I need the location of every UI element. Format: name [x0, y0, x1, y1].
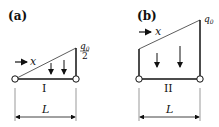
- load-magnitude-label: q0: [204, 14, 214, 25]
- panel-b: (b) x II q0 L: [136, 9, 214, 121]
- length-label: L: [165, 103, 173, 116]
- trapezoidal-load: [139, 20, 200, 79]
- pin-support-icon: [12, 76, 18, 82]
- x-axis-label: x: [155, 25, 162, 38]
- beam-diagram: (a) x I q0 2 L (b): [0, 0, 219, 127]
- length-label: L: [41, 103, 49, 116]
- svg-text:2: 2: [82, 51, 88, 61]
- panel-b-label: (b): [137, 9, 157, 23]
- panel-a-label: (a): [8, 9, 27, 23]
- triangular-load: [15, 48, 76, 79]
- pin-support-icon: [197, 76, 203, 82]
- x-axis-label: x: [30, 55, 37, 68]
- pin-support-icon: [73, 76, 79, 82]
- load-magnitude-label: q0 2: [80, 41, 90, 61]
- panel-a: (a) x I q0 2 L: [8, 9, 90, 121]
- beam-label: II: [164, 82, 173, 95]
- beam-label: I: [42, 82, 46, 95]
- pin-support-icon: [136, 76, 142, 82]
